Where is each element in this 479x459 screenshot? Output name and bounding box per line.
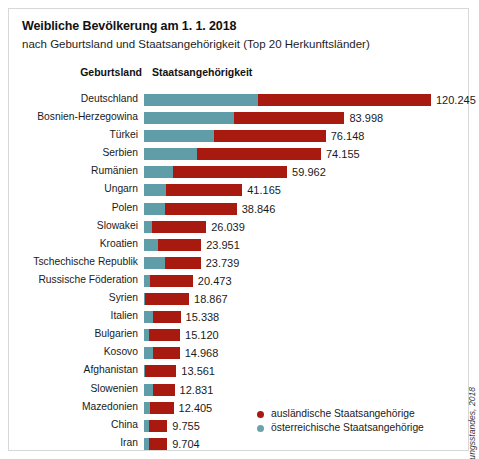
bar-row-label: Italien (111, 310, 138, 321)
bar-row: Italien15.338 (9, 309, 470, 327)
bar-track: 41.165 (144, 184, 281, 196)
bar-value-label: 120.245 (431, 94, 476, 106)
bar-value-label: 15.120 (180, 329, 219, 341)
bar-track: 13.561 (144, 365, 215, 377)
bar-row-label: Polen (112, 202, 138, 213)
bar-row-label: Mazedonien (82, 401, 138, 412)
bar-value-label: 12.831 (175, 384, 214, 396)
bar-value-label: 26.039 (206, 221, 245, 233)
bar-row-label: Slowenien (90, 383, 138, 394)
bar-row-label: Rumänien (91, 165, 138, 176)
bar-segment-austrian (144, 221, 152, 233)
bar-row: Syrien18.867 (9, 291, 470, 309)
bar-segment-foreign (197, 148, 321, 160)
bar-value-label: 74.155 (321, 148, 360, 160)
bar-value-label: 12.405 (174, 402, 213, 414)
bar-value-label: 13.561 (176, 365, 215, 377)
bar-segment-foreign (214, 130, 325, 142)
bar-row-label: Afghanistan (84, 364, 138, 375)
bar-row-label: China (111, 419, 138, 430)
bar-segment-foreign (166, 184, 242, 196)
bar-track: 23.951 (144, 239, 240, 251)
bar-row-label: Bulgarien (94, 328, 138, 339)
chart-legend: ausländische Staatsangehörigeösterreichi… (257, 407, 424, 435)
bar-row: Slowakei26.039 (9, 219, 470, 237)
bar-value-label: 41.165 (242, 184, 281, 196)
bar-segment-foreign (153, 311, 181, 323)
bar-row: Kosovo14.968 (9, 345, 470, 363)
legend-dot-icon (257, 425, 264, 432)
bar-segment-foreign (153, 347, 180, 359)
bar-row: Bosnien-Herzegowina83.998 (9, 110, 470, 128)
bar-row: Türkei76.148 (9, 128, 470, 146)
bar-value-label: 38.846 (237, 203, 276, 215)
column-header-citizenship: Staatsangehörigkeit (152, 66, 252, 78)
bar-segment-foreign (149, 438, 167, 450)
bar-track: 59.962 (144, 166, 326, 178)
bar-segment-austrian (144, 166, 173, 178)
bar-segment-foreign (165, 203, 236, 215)
chart-page: Weibliche Bevölkerung am 1. 1. 2018 nach… (0, 0, 479, 459)
bar-value-label: 23.951 (201, 239, 240, 251)
bar-value-label: 15.338 (181, 311, 220, 323)
bar-segment-austrian (144, 148, 197, 160)
bar-row-label: Syrien (109, 292, 138, 303)
bar-row-label: Serbien (103, 147, 139, 158)
bar-segment-austrian (144, 112, 234, 124)
bar-track: 9.704 (144, 438, 200, 450)
bar-track: 23.739 (144, 257, 239, 269)
bar-track: 20.473 (144, 275, 232, 287)
bar-row: Iran9.704 (9, 436, 470, 454)
bar-track: 12.831 (144, 384, 213, 396)
legend-dot-icon (257, 411, 264, 418)
bar-track: 74.155 (144, 148, 360, 160)
bar-row-label: Bosnien-Herzegowina (37, 111, 138, 122)
bar-row-label: Deutschland (81, 93, 138, 104)
bar-value-label: 23.739 (201, 257, 240, 269)
bar-row: Russische Föderation20.473 (9, 273, 470, 291)
bar-track: 120.245 (144, 94, 476, 106)
bar-track: 14.968 (144, 347, 218, 359)
bar-track: 15.120 (144, 329, 219, 341)
bar-row: Slowenien12.831 (9, 382, 470, 400)
bar-segment-austrian (144, 257, 165, 269)
bar-track: 38.846 (144, 203, 275, 215)
bar-value-label: 20.473 (193, 275, 232, 287)
bar-row-label: Kroatien (100, 238, 138, 249)
bar-segment-foreign (152, 221, 206, 233)
bar-segment-foreign (165, 257, 200, 269)
legend-item-foreign: ausländische Staatsangehörige (257, 407, 424, 421)
bar-track: 83.998 (144, 112, 383, 124)
bar-value-label: 14.968 (180, 347, 219, 359)
bar-row: Tschechische Republik23.739 (9, 255, 470, 273)
bar-value-label: 76.148 (326, 130, 365, 142)
bar-row-label: Türkei (109, 129, 138, 140)
bar-value-label: 18.867 (189, 293, 228, 305)
bar-segment-foreign (145, 293, 189, 305)
source-note-holder: Quelle: Statistik Austria, Statistik des… (455, 197, 469, 447)
bar-track: 15.338 (144, 311, 219, 323)
source-note: Quelle: Statistik Austria, Statistik des… (467, 387, 477, 459)
page-subtitle: nach Geburtsland und Staatsangehörigkeit… (22, 38, 370, 50)
bar-row: Serbien74.155 (9, 146, 470, 164)
legend-item-label: ausländische Staatsangehörige (271, 408, 415, 419)
bar-row: Rumänien59.962 (9, 164, 470, 182)
chart-panel: Weibliche Bevölkerung am 1. 1. 2018 nach… (8, 8, 469, 451)
bar-row: Polen38.846 (9, 201, 470, 219)
bar-row: Kroatien23.951 (9, 237, 470, 255)
page-title: Weibliche Bevölkerung am 1. 1. 2018 (22, 19, 236, 33)
column-header-birth-country: Geburtsland (74, 66, 142, 78)
bar-segment-austrian (144, 347, 153, 359)
bar-segment-austrian (144, 384, 153, 396)
bar-track: 9.755 (144, 420, 200, 432)
bar-segment-foreign (149, 329, 180, 341)
bar-value-label: 59.962 (287, 166, 326, 178)
bar-row-label: Ungarn (104, 183, 138, 194)
bar-segment-foreign (150, 275, 193, 287)
bar-segment-foreign (153, 384, 175, 396)
bar-value-label: 9.704 (167, 438, 200, 450)
bar-row-label: Kosovo (104, 346, 138, 357)
bar-segment-austrian (144, 94, 258, 106)
bar-segment-austrian (144, 239, 158, 251)
bar-row-label: Iran (120, 437, 138, 448)
